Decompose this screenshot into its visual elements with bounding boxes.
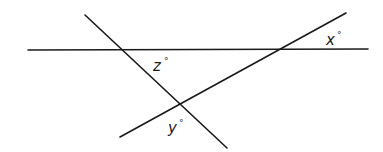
geometry-diagram: z ° x ° y ° [0, 0, 383, 152]
angle-label-z: z ° [152, 56, 169, 75]
angle-label-x: x ° [325, 30, 342, 49]
degree-symbol: ° [164, 56, 169, 66]
angle-variable-z: z [152, 57, 162, 75]
transversal-ascending [120, 13, 346, 137]
transversal-descending [85, 15, 227, 148]
degree-symbol: ° [337, 30, 342, 40]
angle-variable-x: x [325, 31, 335, 49]
angle-variable-y: y [167, 119, 178, 137]
horizontal-line [28, 49, 368, 50]
angle-label-y: y ° [167, 118, 184, 137]
degree-symbol: ° [179, 118, 184, 128]
